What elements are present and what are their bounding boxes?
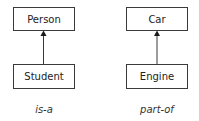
part-of-arrow-icon (154, 31, 160, 65)
arrows-layer (0, 0, 199, 121)
is-a-arrow-icon (41, 31, 47, 65)
